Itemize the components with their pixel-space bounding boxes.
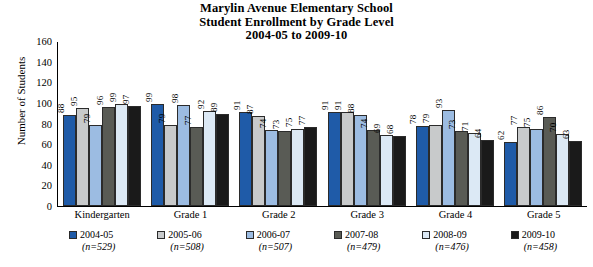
legend-text: 2006-07(n=507) [257, 229, 292, 252]
bar [429, 125, 442, 206]
bar [164, 125, 177, 206]
bar [304, 127, 317, 206]
bar [455, 131, 468, 206]
bar-value-label: 97 [121, 95, 130, 104]
x-axis-line [57, 206, 587, 207]
plot-area: 160140120100806040200 889579969997997998… [57, 42, 587, 207]
bar-slot: 92 [203, 42, 216, 206]
bar-value-label: 92 [196, 100, 205, 109]
bar [354, 115, 367, 206]
bar-slot: 99 [151, 42, 164, 206]
bar-group: 997998779289 [146, 42, 234, 206]
bar-value-label: 64 [474, 129, 483, 138]
legend-item[interactable]: 2006-07(n=507) [234, 229, 322, 252]
legend-item[interactable]: 2008-09(n=476) [410, 229, 498, 252]
bar-value-label: 91 [334, 101, 343, 110]
bar-slot: 75 [530, 42, 543, 206]
bar-groups: 8895799699979979987792899187747375779191… [58, 42, 587, 206]
legend-item[interactable]: 2005-06(n=508) [145, 229, 233, 252]
bar-slot: 64 [481, 42, 494, 206]
bar-slot: 79 [89, 42, 102, 206]
legend-series-name: 2009-10 [522, 229, 557, 241]
bar-group: 919188746968 [323, 42, 411, 206]
chart-legend: 2004-05(n=529)2005-06(n=508)2006-07(n=50… [57, 229, 587, 252]
legend-series-count: (n=507) [257, 241, 292, 253]
bar-value-label: 99 [144, 93, 153, 102]
legend-item[interactable]: 2004-05(n=529) [57, 229, 145, 252]
legend-item[interactable]: 2007-08(n=479) [322, 229, 410, 252]
bar-slot: 77 [304, 42, 317, 206]
legend-series-name: 2008-09 [433, 229, 468, 241]
category-label: Grade 3 [323, 209, 411, 220]
bar-value-label: 75 [284, 117, 293, 126]
bar [556, 134, 569, 206]
bar-value-label: 86 [536, 106, 545, 115]
bar-slot: 63 [569, 42, 582, 206]
bar-group: 627775867063 [499, 42, 587, 206]
legend-swatch [422, 231, 430, 239]
legend-text: 2008-09(n=476) [433, 229, 468, 252]
bar-value-label: 73 [271, 119, 280, 128]
bar [216, 114, 229, 206]
bar [252, 116, 265, 206]
enrollment-bar-chart: Marylin Avenue Elementary School Student… [0, 0, 593, 267]
bar-slot: 91 [239, 42, 252, 206]
legend-series-name: 2007-08 [345, 229, 380, 241]
bar-slot: 89 [216, 42, 229, 206]
bar-slot: 79 [164, 42, 177, 206]
y-tick-label: 80 [42, 120, 53, 130]
bar [328, 112, 341, 206]
bar [278, 131, 291, 206]
category-label: Kindergarten [58, 209, 146, 220]
bar [380, 135, 393, 206]
bar-value-label: 75 [523, 117, 532, 126]
bar [530, 129, 543, 206]
bar-value-label: 87 [245, 105, 254, 114]
bar [481, 140, 494, 206]
bar-slot: 77 [190, 42, 203, 206]
bar-slot: 79 [429, 42, 442, 206]
y-tick-label: 160 [36, 37, 52, 47]
legend-text: 2004-05(n=529) [80, 229, 115, 252]
bar [416, 126, 429, 206]
legend-item[interactable]: 2009-10(n=458) [499, 229, 587, 252]
bar-slot: 78 [416, 42, 429, 206]
bar-value-label: 79 [422, 113, 431, 122]
bar-value-label: 74 [258, 118, 267, 127]
bar-slot: 91 [341, 42, 354, 206]
chart-title: Marylin Avenue Elementary School [0, 2, 593, 16]
bar-slot: 70 [556, 42, 569, 206]
bar-group: 889579969997 [58, 42, 146, 206]
bar-value-label: 88 [56, 104, 65, 113]
bar [89, 125, 102, 206]
bar-value-label: 91 [321, 101, 330, 110]
bar-value-label: 93 [435, 99, 444, 108]
bar [517, 127, 530, 206]
chart-title-block: Marylin Avenue Elementary School Student… [0, 2, 593, 43]
legend-series-count: (n=458) [522, 241, 557, 253]
bar-value-label: 99 [108, 93, 117, 102]
bar-value-label: 96 [95, 96, 104, 105]
bar-value-label: 73 [448, 119, 457, 128]
legend-series-count: (n=508) [168, 241, 203, 253]
bar [265, 130, 278, 206]
bar-value-label: 77 [297, 115, 306, 124]
bar-value-label: 88 [347, 104, 356, 113]
bar-value-label: 91 [232, 101, 241, 110]
y-tick-label: 0 [47, 202, 52, 212]
bar-group: 918774737577 [234, 42, 322, 206]
category-label: Grade 5 [500, 209, 588, 220]
bar [190, 127, 203, 206]
bar [63, 115, 76, 206]
legend-swatch [334, 231, 342, 239]
bar-value-label: 69 [373, 123, 382, 132]
y-tick-label: 140 [36, 58, 52, 68]
y-tick-label: 100 [36, 99, 52, 109]
category-label: Grade 2 [235, 209, 323, 220]
bar [291, 129, 304, 206]
y-tick-label: 40 [42, 161, 53, 171]
bar-value-label: 70 [549, 122, 558, 131]
bar-value-label: 89 [209, 103, 218, 112]
bar-value-label: 68 [386, 124, 395, 133]
legend-text: 2007-08(n=479) [345, 229, 380, 252]
